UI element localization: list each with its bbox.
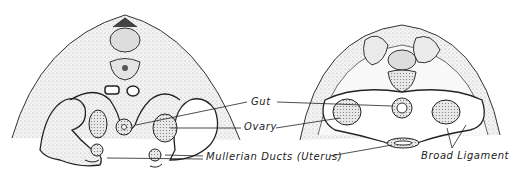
right-cross-section bbox=[300, 25, 500, 148]
label-gut: Gut bbox=[251, 97, 271, 107]
label-ovary: Ovary bbox=[244, 122, 277, 132]
label-mullerian-ducts: Mullerian Ducts (Uterus) bbox=[206, 152, 342, 162]
left-cross-section bbox=[12, 15, 240, 167]
label-broad-ligament: Broad Ligament bbox=[421, 151, 509, 161]
